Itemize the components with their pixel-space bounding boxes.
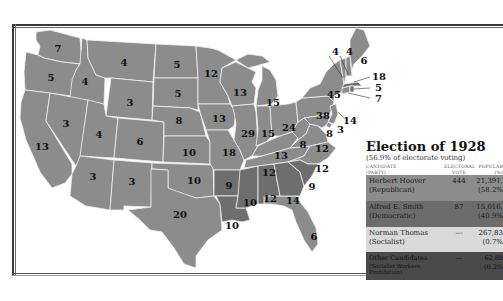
state-in	[256, 106, 272, 146]
label-wy: 3	[127, 97, 134, 108]
header-electoral: ELECTORAL VOTE	[444, 164, 474, 175]
label-la: 10	[225, 220, 239, 231]
label-wv: 8	[300, 139, 307, 150]
popular-vote: 267,83 (0.7%	[474, 229, 503, 246]
candidate-party: (Socialist)	[369, 238, 444, 247]
election-legend: Election of 1928 (56.9% of electorate vo…	[366, 140, 503, 280]
label-va: 12	[315, 143, 329, 154]
label-ia: 13	[212, 113, 226, 124]
label-ga: 14	[286, 195, 300, 206]
electoral-vote: ---	[444, 229, 474, 238]
label-nm: 3	[129, 176, 136, 187]
label-wi: 13	[233, 87, 247, 98]
label-sc: 9	[309, 181, 316, 192]
label-mi: 15	[266, 97, 280, 108]
label-nj: 14	[343, 115, 357, 126]
label-ok: 10	[187, 175, 201, 186]
state-ri	[350, 86, 354, 92]
label-az: 3	[90, 171, 97, 182]
label-de: 3	[337, 124, 344, 135]
label-ca: 13	[35, 141, 49, 152]
state-az	[70, 156, 114, 210]
header-candidate: CANDIDATE (PARTY)	[366, 164, 444, 175]
candidate-party-2: Prohibition)	[369, 269, 444, 276]
label-ny: 45	[327, 89, 341, 100]
label-vt: 4	[332, 46, 339, 57]
label-nd: 5	[174, 59, 181, 70]
label-ky: 13	[274, 150, 288, 161]
label-nc: 12	[315, 163, 329, 174]
legend-row-other: Other Candidates (Socialist Workers, Pro…	[366, 252, 503, 280]
label-me: 6	[361, 55, 368, 66]
candidate-name: Other Candidates	[369, 254, 427, 262]
popular-vote: 62,89 (0.2%	[474, 254, 503, 271]
label-mn: 12	[204, 68, 218, 79]
label-sd: 5	[175, 88, 182, 99]
electoral-vote: 444	[444, 177, 474, 186]
candidate-name: Norman Thomas	[369, 229, 428, 237]
label-ut: 4	[96, 129, 103, 140]
label-ar: 9	[226, 180, 233, 191]
label-nh: 4	[346, 46, 353, 57]
electoral-vote: ---	[444, 254, 474, 263]
label-ct: 7	[375, 93, 382, 104]
label-co: 6	[137, 136, 144, 147]
candidate-name: Alfred E. Smith	[369, 203, 424, 211]
label-or: 5	[48, 72, 55, 83]
legend-row-smith: Alfred E. Smith (Democratic) 87 15,016, …	[366, 201, 503, 227]
label-tn: 12	[262, 167, 276, 178]
label-il: 29	[241, 128, 255, 139]
label-ri: 5	[375, 82, 382, 93]
label-oh: 24	[282, 122, 296, 133]
legend-row-hoover: Herbert Hoover (Republican) 444 21,391, …	[366, 175, 503, 201]
candidate-party: (Republican)	[369, 186, 444, 195]
legend-subtitle: (56.9% of electorate voting)	[366, 154, 503, 163]
label-al: 12	[263, 193, 277, 204]
label-md: 8	[326, 128, 333, 139]
label-tx: 20	[173, 209, 187, 220]
legend-header: CANDIDATE (PARTY) ELECTORAL VOTE POPULAR…	[366, 164, 503, 175]
label-id: 4	[82, 76, 89, 87]
candidate-party: (Democratic)	[369, 212, 444, 221]
legend-row-thomas: Norman Thomas (Socialist) --- 267,83 (0.…	[366, 227, 503, 252]
legend-title: Election of 1928	[366, 140, 503, 154]
electoral-vote: 87	[444, 203, 474, 212]
label-mt: 4	[121, 57, 128, 68]
label-ne: 8	[176, 115, 183, 126]
candidate-name: Herbert Hoover	[369, 177, 426, 185]
popular-vote: 15,016, (40.9%	[474, 203, 503, 220]
label-ma: 18	[372, 71, 386, 82]
popular-vote: 21,391, (58.2%	[474, 177, 503, 194]
label-pa: 38	[316, 110, 330, 121]
label-ms: 10	[243, 197, 257, 208]
label-fl: 6	[311, 231, 318, 242]
label-wa: 7	[55, 43, 62, 54]
label-ks: 10	[182, 147, 196, 158]
label-in: 15	[261, 128, 275, 139]
label-nv: 3	[63, 118, 70, 129]
label-mo: 18	[222, 147, 236, 158]
header-popular: POPULAR (%)	[474, 164, 503, 175]
